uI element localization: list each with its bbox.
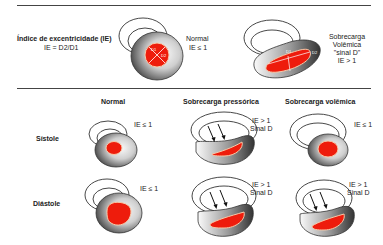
top-divider [17, 5, 371, 6]
column-header-pressure: Sobrecarga pressórica [183, 97, 259, 106]
row-label-diastole: Diástole [33, 199, 60, 208]
ie-title: Índice de excentricidade (IE) [17, 34, 112, 43]
svg-text:D1: D1 [151, 47, 157, 52]
svg-text:D2: D2 [312, 50, 318, 55]
ie-formula: IE = D2/D1 [44, 43, 78, 52]
top-normal-label: Normal [186, 34, 209, 43]
diastole-pressure-heart [190, 176, 260, 238]
svg-text:D2: D2 [161, 53, 167, 58]
diastole-normal-ie: IE ≤ 1 [140, 184, 158, 193]
overload-ie: IE > 1 [327, 56, 367, 65]
row-label-systole: Sístole [36, 134, 59, 143]
diastole-volume-sign: Sinal D [347, 188, 370, 197]
svg-text:D1: D1 [286, 49, 292, 54]
overload-heart-diagram: D1 D2 [238, 18, 328, 88]
normal-heart-diagram: D1 D2 [115, 14, 185, 84]
column-header-volume: Sobrecarga volêmica [285, 97, 355, 106]
systole-normal-ie: IE ≤ 1 [134, 120, 152, 129]
middle-divider [17, 88, 371, 89]
diastole-normal-heart [83, 177, 148, 237]
systole-pressure-heart [190, 110, 260, 166]
systole-volume-heart [288, 112, 354, 170]
diastole-pressure-sign: Sinal D [250, 188, 273, 197]
column-header-normal: Normal [101, 97, 125, 106]
systole-pressure-sign: Sinal D [250, 124, 273, 133]
systole-volume-ie: IE ≤ 1 [354, 120, 372, 129]
top-normal-ie: IE ≤ 1 [189, 43, 207, 52]
